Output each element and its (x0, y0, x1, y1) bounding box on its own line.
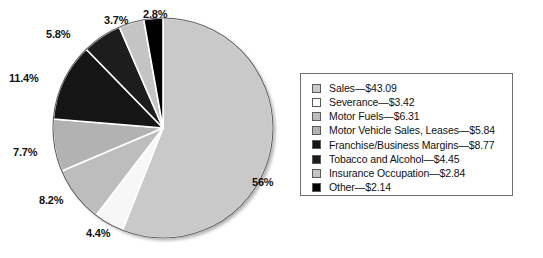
pie-slices (53, 18, 273, 238)
legend-item-label: Other—$2.14 (329, 182, 391, 193)
legend-item-label: Insurance Occupation—$2.84 (329, 168, 465, 179)
legend-item[interactable]: Insurance Occupation—$2.84 (312, 166, 512, 180)
legend-swatch-icon (312, 155, 321, 164)
legend-swatch-icon (312, 183, 321, 192)
legend-item-label: Tobacco and Alcohol—$4.45 (329, 154, 460, 165)
legend-item[interactable]: Motor Vehicle Sales, Leases—$5.84 (312, 124, 512, 138)
legend-item-label: Franchise/Business Margins—$8.77 (329, 140, 494, 151)
legend-swatch-icon (312, 112, 321, 121)
legend-item-label: Motor Vehicle Sales, Leases—$5.84 (329, 125, 495, 136)
legend-item[interactable]: Franchise/Business Margins—$8.77 (312, 138, 512, 152)
legend-item[interactable]: Motor Fuels—$6.31 (312, 109, 512, 123)
pie-label-tobacco: 5.8% (46, 28, 70, 40)
legend-item-label: Severance—$3.42 (329, 97, 414, 108)
pie-label-other: 2.8% (143, 8, 167, 20)
legend-swatch-icon (312, 98, 321, 107)
pie-label-sales: 56% (252, 176, 273, 188)
legend-item-label: Sales—$43.09 (329, 83, 397, 94)
legend-box: Sales—$43.09Severance—$3.42Motor Fuels—$… (300, 73, 513, 196)
pie-label-franchise: 11.4% (9, 72, 39, 84)
legend-swatch-icon (312, 84, 321, 93)
pie-label-motor-vehicle: 7.7% (13, 146, 37, 158)
legend-item[interactable]: Tobacco and Alcohol—$4.45 (312, 152, 512, 166)
pie-chart-area: 56% 4.4% 8.2% 7.7% 11.4% 5.8% 3.7% 2.8% (0, 0, 300, 258)
pie-label-motor-fuels: 8.2% (39, 194, 63, 206)
legend-swatch-icon (312, 126, 321, 135)
pie-label-insurance: 3.7% (104, 14, 128, 26)
pie-chart-figure: 56% 4.4% 8.2% 7.7% 11.4% 5.8% 3.7% 2.8% … (0, 0, 543, 258)
legend-swatch-icon (312, 169, 321, 178)
legend-item[interactable]: Sales—$43.09 (312, 81, 512, 95)
legend-item[interactable]: Other—$2.14 (312, 180, 512, 194)
pie-svg (0, 0, 300, 258)
pie-label-severance: 4.4% (86, 227, 110, 239)
legend-item[interactable]: Severance—$3.42 (312, 95, 512, 109)
legend-item-label: Motor Fuels—$6.31 (329, 111, 420, 122)
legend-swatch-icon (312, 140, 321, 149)
